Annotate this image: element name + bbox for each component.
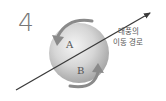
label-a: A	[65, 39, 74, 50]
typhoon-diagram: 4 A B 태풍의 이동 경로	[0, 0, 166, 101]
problem-number: 4	[18, 8, 34, 37]
path-label-line1: 태풍의	[118, 26, 139, 36]
path-label-line2: 이동 경로	[113, 37, 143, 47]
label-b: B	[77, 65, 84, 76]
